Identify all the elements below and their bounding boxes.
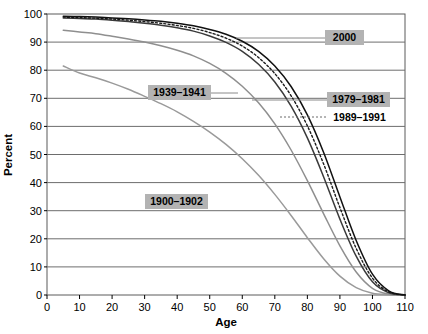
x-tick-label-80: 80 [301,301,313,313]
x-tick-label-20: 20 [106,301,118,313]
annotation-2000: 2000 [325,30,364,45]
y-tick-label-40: 40 [30,177,42,189]
y-tick-label-20: 20 [30,233,42,245]
y-axis-title: Percent [2,134,14,176]
x-tick-label-100: 100 [363,301,381,313]
y-tick-label-10: 10 [30,261,42,273]
x-tick-label-0: 0 [44,301,50,313]
series-label-2000: 2000 [333,31,357,43]
annotation-1939-1941: 1939–1941 [148,85,211,100]
annotation-1979-1981: 1979–1981 [327,92,390,107]
y-tick-label-60: 60 [30,120,42,132]
y-tick-label-0: 0 [36,289,42,301]
x-tick-label-90: 90 [334,301,346,313]
x-tick-label-110: 110 [396,301,414,313]
y-tick-label-90: 90 [30,36,42,48]
series-label-1979-1981: 1979–1981 [332,93,385,105]
y-tick-label-80: 80 [30,64,42,76]
survival-curve-chart: 0102030405060708090100 01020304050607080… [0,0,428,334]
chart-svg: 0102030405060708090100 01020304050607080… [0,0,428,334]
y-tick-label-70: 70 [30,92,42,104]
y-tick-label-50: 50 [30,149,42,161]
annotation-1900-1902: 1900–1902 [145,194,208,209]
x-tick-label-50: 50 [204,301,216,313]
x-tick-label-10: 10 [73,301,85,313]
x-axis-title: Age [215,316,237,328]
y-tick-label-100: 100 [24,8,42,20]
x-tick-label-30: 30 [139,301,151,313]
x-tick-label-70: 70 [269,301,281,313]
series-label-1989-1991: 1989–1991 [333,111,386,123]
y-tick-label-30: 30 [30,205,42,217]
series-label-1900-1902: 1900–1902 [150,195,203,207]
series-label-1939-1941: 1939–1941 [153,86,206,98]
x-tick-label-40: 40 [171,301,183,313]
annotation-1989-1991: 1989–1991 [328,110,391,125]
x-tick-label-60: 60 [236,301,248,313]
